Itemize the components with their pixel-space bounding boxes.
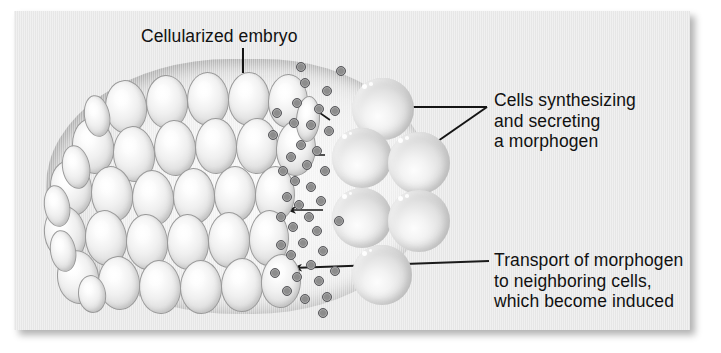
morphogen-particle [298,238,308,248]
morphogen-particle [289,118,299,128]
small-cell [228,72,270,126]
label-cells-synthesizing: Cells synthesizing and secreting a morph… [494,90,636,152]
morphogen-particle [276,240,286,250]
morphogen-particle [300,294,310,304]
leader-synth-lower [438,107,487,141]
morphogen-particle [302,160,312,170]
label-transport-line-1: Transport of morphogen [494,250,683,271]
label-synth-line-3: a morphogen [494,131,636,152]
morphogen-particle [324,126,334,136]
label-transport-of-morphogen: Transport of morphogen to neighboring ce… [494,250,683,312]
morphogen-particle [286,250,296,260]
morphogen-particle [330,106,340,116]
morphogen-particle [314,276,324,286]
morphogen-particle [300,78,310,88]
morphogen-particle [316,196,326,206]
morphogen-particle [334,216,344,226]
label-transport-line-3: which become induced [494,291,683,312]
morphogen-particle [292,98,302,108]
morphogen-particle [312,226,322,236]
morphogen-particle [288,222,298,232]
morphogen-particle [272,108,282,118]
morphogen-particle [268,130,278,140]
morphogen-particle [314,104,324,114]
morphogen-particle [336,66,346,76]
morphogen-particle [322,86,332,96]
morphogen-particle [306,182,316,192]
morphogen-particle [296,140,306,150]
morphogen-particle [318,246,328,256]
label-synth-line-1: Cells synthesizing [494,90,636,111]
morphogen-particle [292,272,302,282]
morphogen-particle [306,260,316,270]
morphogen-particle [276,212,286,222]
morphogen-particle [282,286,292,296]
morphogen-particle [290,176,300,186]
diagram-canvas: Cellularized embryo Cells synthesizing a… [0,0,721,353]
morphogen-particle [278,166,288,176]
morphogen-particle [306,120,316,130]
morphogen-particle [312,146,322,156]
label-synth-line-2: and secreting [494,111,636,132]
morphogen-particle [296,62,306,72]
small-cell [180,260,223,315]
morphogen-particle [286,152,296,162]
morphogen-particle [270,268,280,278]
morphogen-particle [294,200,304,210]
large-secreting-cell [388,190,450,252]
morphogen-particle [330,266,340,276]
large-secreting-cell [352,245,412,305]
morphogen-particle [282,192,292,202]
morphogen-particle [320,166,330,176]
label-cellularized-embryo: Cellularized embryo [141,26,298,47]
morphogen-particle [318,308,328,318]
morphogen-particle [304,212,314,222]
label-transport-line-2: to neighboring cells, [494,271,683,292]
large-secreting-cell [332,128,392,188]
morphogen-particle [322,292,332,302]
large-secreting-cell [388,132,450,194]
